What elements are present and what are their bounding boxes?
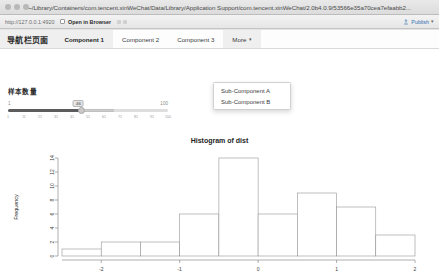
y-tick-label: 14 xyxy=(49,155,55,161)
slider-tick: 51 xyxy=(86,114,90,119)
slider-fill xyxy=(8,109,82,112)
y-tick-label: 8 xyxy=(49,198,55,201)
window-title: ~/Library/Containers/com.tencent.xinWeCh… xyxy=(0,4,439,11)
publish-button[interactable]: Publish ▾ xyxy=(403,19,434,25)
chevron-down-icon: ▾ xyxy=(249,37,252,42)
histogram-bar xyxy=(219,158,258,256)
y-tick-label: 12 xyxy=(49,169,55,175)
slider-tick: 21 xyxy=(38,114,42,119)
nav-item-component-1[interactable]: Component 1 xyxy=(56,30,114,48)
slider-tick: 1 xyxy=(7,114,9,119)
y-tick-label: 0 xyxy=(49,254,55,257)
histogram-chart: Histogram of dist 02468101214Frequency-2… xyxy=(0,130,439,279)
open-in-browser-label: Open in Browser xyxy=(68,19,111,25)
slider-max-label: 100 xyxy=(160,101,168,106)
y-axis-label: Frequency xyxy=(13,194,19,220)
slider-tick-label: 31 xyxy=(54,115,58,119)
slider-tick-label: 21 xyxy=(38,115,42,119)
nav-item-more[interactable]: More ▾ xyxy=(223,30,261,48)
slider-ticks: 1112131415161718191100 xyxy=(8,114,168,123)
app-window: ~/Library/Containers/com.tencent.xinWeCh… xyxy=(0,0,439,279)
nav-item-label: Component 3 xyxy=(177,36,214,43)
slider-selection xyxy=(82,109,114,112)
histogram-bar xyxy=(101,242,140,256)
slider-tick: 31 xyxy=(54,114,58,119)
x-tick-label: 1 xyxy=(335,266,338,272)
open-in-browser-button[interactable]: Open in Browser xyxy=(60,19,111,25)
page-content: 导航栏页面 Component 1 Component 2 Component … xyxy=(0,29,439,278)
slider-handle[interactable] xyxy=(78,107,85,114)
histogram-bar xyxy=(376,235,415,256)
publish-label: Publish xyxy=(411,19,429,25)
nav-item-label: Component 2 xyxy=(122,36,159,43)
publish-icon xyxy=(403,19,409,25)
y-tick-label: 6 xyxy=(49,212,55,215)
more-dropdown-menu[interactable]: Sub-Component A Sub-Component B xyxy=(213,82,291,110)
window-titlebar: ~/Library/Containers/com.tencent.xinWeCh… xyxy=(0,0,439,15)
navigation-bar: 导航栏页面 Component 1 Component 2 Component … xyxy=(0,30,439,49)
slider-tick-label: 51 xyxy=(86,115,90,119)
slider-tick: 91 xyxy=(150,114,154,119)
slider-tick: 61 xyxy=(102,114,106,119)
navbar-brand[interactable]: 导航栏页面 xyxy=(0,30,56,48)
chart-title: Histogram of dist xyxy=(0,137,439,144)
browser-window-icon xyxy=(60,19,65,24)
sample-size-panel: 样本数量 1 100 46 1112131415161718191100 xyxy=(8,86,168,123)
nav-item-label: Component 1 xyxy=(65,36,105,43)
slider-tick-label: 11 xyxy=(22,115,26,119)
slider-tick-label: 41 xyxy=(70,115,74,119)
slider-track[interactable] xyxy=(8,109,168,112)
histogram-plot: 02468101214Frequency-2-1012dist xyxy=(0,144,439,279)
address-label[interactable]: http://127.0.0.1:4920 xyxy=(5,19,54,25)
histogram-bar xyxy=(62,249,101,256)
slider-tick-label: 81 xyxy=(134,115,138,119)
slider-tick-label: 91 xyxy=(150,115,154,119)
slider-tick: 41 xyxy=(70,114,74,119)
slider-tick-label: 61 xyxy=(102,115,106,119)
slider-tick-label: 100 xyxy=(165,115,171,119)
slider-endpoints: 1 100 46 xyxy=(8,101,168,107)
slider-tick-label: 1 xyxy=(7,115,9,119)
y-tick-label: 2 xyxy=(49,240,55,243)
slider-tick-label: 71 xyxy=(118,115,122,119)
nav-item-component-2[interactable]: Component 2 xyxy=(113,30,168,48)
x-tick-label: -2 xyxy=(99,266,104,272)
histogram-bar xyxy=(337,207,376,256)
histogram-bar xyxy=(180,214,219,256)
nav-item-component-3[interactable]: Component 3 xyxy=(168,30,223,48)
menu-item-sub-component-b[interactable]: Sub-Component B xyxy=(214,96,290,107)
slider-tick: 71 xyxy=(118,114,122,119)
nav-item-label: More xyxy=(232,36,246,43)
y-tick-label: 10 xyxy=(49,183,55,189)
x-tick-label: -1 xyxy=(177,266,182,272)
sample-size-label: 样本数量 xyxy=(8,86,168,96)
y-tick-label: 4 xyxy=(49,226,55,229)
slider-tick: 11 xyxy=(22,114,26,119)
toolbar-extra-icons[interactable] xyxy=(117,20,127,24)
x-tick-label: 2 xyxy=(414,266,417,272)
histogram-bar xyxy=(258,214,297,256)
slider-tick: 81 xyxy=(134,114,138,119)
histogram-bar xyxy=(140,242,179,256)
app-toolbar: http://127.0.0.1:4920 Open in Browser Pu… xyxy=(0,15,439,29)
chevron-down-icon[interactable]: ▾ xyxy=(431,19,434,24)
menu-item-sub-component-a[interactable]: Sub-Component A xyxy=(214,85,290,96)
histogram-bar xyxy=(297,193,336,256)
slider-tick: 100 xyxy=(165,114,171,119)
x-tick-label: 0 xyxy=(257,266,260,272)
slider-min-label: 1 xyxy=(8,101,11,106)
